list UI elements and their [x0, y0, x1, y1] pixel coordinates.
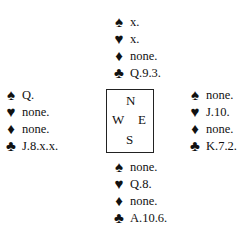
club-icon: ♣ — [188, 138, 202, 154]
spade-icon: ♠ — [4, 87, 18, 103]
north-clubs: Q.9.3. — [130, 65, 161, 81]
diamond-icon: ♦ — [4, 121, 18, 137]
spade-icon: ♠ — [112, 159, 126, 175]
west-hearts: none. — [22, 104, 49, 120]
heart-icon: ♥ — [112, 176, 126, 192]
compass-north: N — [126, 94, 135, 108]
compass-east: E — [138, 113, 146, 127]
heart-icon: ♥ — [112, 31, 126, 47]
club-icon: ♣ — [4, 138, 18, 154]
east-diamonds: none. — [206, 121, 233, 137]
compass-south: S — [126, 133, 133, 147]
south-hearts: Q.8. — [130, 176, 152, 192]
heart-icon: ♥ — [4, 104, 18, 120]
east-hearts: J.10. — [206, 104, 230, 120]
club-icon: ♣ — [112, 65, 126, 81]
east-clubs: K.7.2. — [206, 138, 237, 154]
north-diamonds: none. — [130, 48, 157, 64]
north-hearts: x. — [130, 31, 139, 47]
east-spades: none. — [206, 87, 233, 103]
diamond-icon: ♦ — [188, 121, 202, 137]
compass-box: N W E S — [106, 89, 154, 153]
west-spades: Q. — [22, 87, 34, 103]
spade-icon: ♠ — [188, 87, 202, 103]
west-diamonds: none. — [22, 121, 49, 137]
heart-icon: ♥ — [188, 104, 202, 120]
compass-west: W — [112, 113, 124, 127]
west-clubs: J.8.x.x. — [22, 138, 58, 154]
north-spades: x. — [130, 14, 139, 30]
south-spades: none. — [130, 159, 157, 175]
south-clubs: A.10.6. — [130, 210, 167, 226]
spade-icon: ♠ — [112, 14, 126, 30]
club-icon: ♣ — [112, 210, 126, 226]
diamond-icon: ♦ — [112, 193, 126, 209]
south-diamonds: none. — [130, 193, 157, 209]
diamond-icon: ♦ — [112, 48, 126, 64]
